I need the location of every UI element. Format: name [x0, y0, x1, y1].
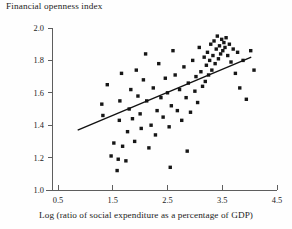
data-point — [222, 41, 225, 44]
data-point — [201, 85, 204, 88]
x-axis-label: Log (ratio of social expenditure as a pe… — [0, 210, 292, 220]
data-point — [121, 145, 124, 148]
data-point — [191, 59, 194, 62]
data-point — [184, 96, 187, 99]
data-point — [140, 127, 143, 130]
data-point — [194, 75, 197, 78]
data-point — [120, 72, 123, 75]
x-axis-tick-group: 0.51.52.53.54.5 — [53, 185, 282, 205]
data-point-group — [100, 34, 256, 172]
data-point — [100, 102, 103, 105]
data-point — [106, 83, 109, 86]
data-point — [176, 109, 179, 112]
data-point — [196, 101, 199, 104]
data-point — [232, 47, 235, 50]
data-point — [157, 62, 160, 65]
data-point — [210, 68, 213, 71]
data-point — [135, 68, 138, 71]
data-point — [169, 166, 172, 169]
data-point — [209, 43, 212, 46]
data-point — [221, 49, 224, 52]
data-point — [213, 62, 216, 65]
data-point — [167, 125, 170, 128]
y-axis-tick-group: 1.01.21.41.61.82.0 — [34, 24, 52, 195]
data-point — [147, 146, 150, 149]
data-point — [154, 133, 157, 136]
data-point — [112, 141, 115, 144]
data-point — [170, 104, 173, 107]
scatter-plot-figure: Financial openness index 1.01.21.41.61.8… — [0, 0, 292, 229]
y-tick-label: 1.0 — [34, 186, 44, 195]
data-point — [161, 115, 164, 118]
x-tick-label: 4.5 — [272, 196, 282, 205]
data-point — [216, 34, 219, 37]
data-point — [109, 154, 112, 157]
data-point — [133, 140, 136, 143]
data-point — [189, 111, 192, 114]
data-point — [211, 54, 214, 57]
data-point — [212, 39, 215, 42]
data-point — [220, 38, 223, 41]
data-point — [118, 99, 121, 102]
data-point — [228, 43, 231, 46]
data-point — [101, 114, 104, 117]
y-tick-label: 2.0 — [34, 24, 44, 33]
data-point — [186, 149, 189, 152]
data-point — [124, 159, 127, 162]
data-point — [136, 94, 139, 97]
data-point — [159, 96, 162, 99]
x-tick-label: 3.5 — [217, 196, 227, 205]
x-tick-label: 0.5 — [53, 196, 63, 205]
data-point — [138, 112, 141, 115]
data-point — [149, 124, 152, 127]
data-point — [245, 98, 248, 101]
data-point — [236, 51, 239, 54]
data-point — [238, 86, 241, 89]
data-point — [206, 51, 209, 54]
y-tick-label: 1.8 — [34, 56, 44, 65]
data-point — [173, 73, 176, 76]
data-point — [152, 86, 155, 89]
data-point — [171, 49, 174, 52]
trend-line — [78, 57, 252, 130]
data-point — [142, 78, 145, 81]
data-point — [204, 80, 207, 83]
data-point — [193, 89, 196, 92]
data-point — [215, 47, 218, 50]
data-point — [129, 88, 132, 91]
data-point — [217, 57, 220, 60]
data-point — [155, 109, 158, 112]
y-tick-label: 1.6 — [34, 89, 44, 98]
data-point — [180, 119, 183, 122]
data-point — [144, 52, 147, 55]
data-point — [249, 49, 252, 52]
data-point — [117, 158, 120, 161]
data-point — [115, 169, 118, 172]
data-point — [229, 60, 232, 63]
data-point — [199, 70, 202, 73]
data-point — [198, 46, 201, 49]
data-point — [252, 68, 255, 71]
data-point — [219, 52, 222, 55]
data-point — [126, 130, 129, 133]
data-point — [164, 77, 167, 80]
data-point — [224, 36, 227, 39]
data-point — [218, 44, 221, 47]
data-point — [131, 117, 134, 120]
data-point — [208, 59, 211, 62]
data-point — [226, 54, 229, 57]
y-tick-label: 1.4 — [34, 121, 45, 130]
data-point — [118, 119, 121, 122]
data-point — [182, 65, 185, 68]
data-point — [234, 72, 237, 75]
x-tick-label: 1.5 — [108, 196, 118, 205]
data-point — [223, 46, 226, 49]
data-point — [202, 55, 205, 58]
plot-canvas: 1.01.21.41.61.82.0 0.51.52.53.54.5 — [0, 0, 292, 229]
data-point — [205, 64, 208, 67]
x-tick-label: 2.5 — [162, 196, 172, 205]
y-tick-label: 1.2 — [34, 154, 44, 163]
